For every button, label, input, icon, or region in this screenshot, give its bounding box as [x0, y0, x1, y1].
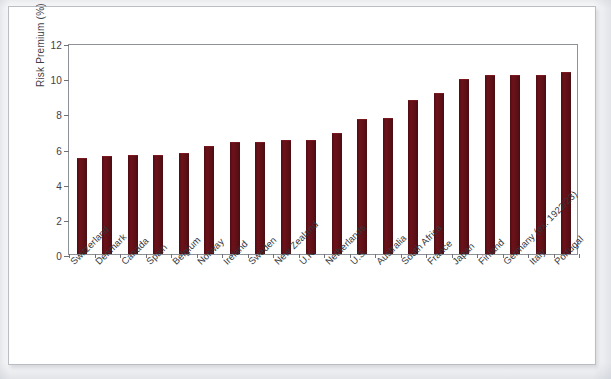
y-tick-mark — [64, 45, 69, 46]
bar — [179, 153, 189, 254]
bar — [383, 118, 393, 254]
bar — [561, 72, 571, 254]
bar — [153, 155, 163, 254]
bar — [459, 79, 469, 254]
y-tick-mark — [64, 186, 69, 187]
chart-page-frame: Risk Premium (%) 024681012 SwitzerlandDe… — [8, 6, 596, 365]
y-tick-label: 8 — [56, 110, 62, 121]
y-tick-label: 10 — [50, 75, 62, 86]
bar — [485, 75, 495, 254]
y-tick-mark — [64, 115, 69, 116]
bar — [408, 100, 418, 254]
y-tick-label: 4 — [56, 180, 62, 191]
figure-root: Risk Premium (%) 024681012 SwitzerlandDe… — [0, 0, 611, 379]
y-tick-label: 2 — [56, 215, 62, 226]
y-tick-label: 6 — [56, 145, 62, 156]
bar — [281, 140, 291, 254]
bar — [510, 75, 520, 254]
x-tick-mark — [579, 254, 580, 258]
y-tick-label: 0 — [56, 251, 62, 262]
bar — [255, 142, 265, 254]
y-tick-label: 12 — [50, 40, 62, 51]
bar — [204, 146, 214, 254]
bar — [332, 133, 342, 254]
bar — [230, 142, 240, 254]
y-tick-mark — [64, 221, 69, 222]
y-tick-mark — [64, 80, 69, 81]
bar — [77, 158, 87, 254]
y-tick-mark — [64, 151, 69, 152]
bar — [128, 155, 138, 254]
y-axis-title: Risk Premium (%) — [35, 3, 46, 87]
plot-area: 024681012 — [68, 44, 578, 255]
